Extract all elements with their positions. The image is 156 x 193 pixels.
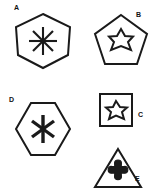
panel-c-svg	[98, 92, 134, 128]
panel-c-label: C	[138, 111, 143, 119]
panel-b-label: B	[136, 11, 141, 19]
panel-b-pentagon	[93, 13, 149, 66]
square-outline	[100, 94, 132, 126]
panel-d-label: D	[9, 96, 14, 104]
panel-a-svg	[13, 12, 73, 70]
panel-a-label: A	[14, 4, 19, 12]
asterisk-6-spoke	[32, 115, 54, 143]
six-pointed-star-outline	[109, 29, 133, 50]
panel-b-svg	[93, 13, 149, 66]
five-pointed-star-outline	[106, 101, 127, 119]
flared-cross-glyph	[108, 160, 128, 180]
figure-canvas: A B D C E	[0, 0, 156, 193]
panel-a-heptagon	[13, 12, 73, 70]
panel-d-hexagon	[14, 101, 72, 157]
asterisk-8-spoke	[29, 27, 57, 55]
panel-c-square	[98, 92, 134, 128]
panel-d-svg	[14, 101, 72, 157]
panel-e-label: E	[135, 175, 140, 183]
pentagon-outline	[95, 15, 147, 64]
